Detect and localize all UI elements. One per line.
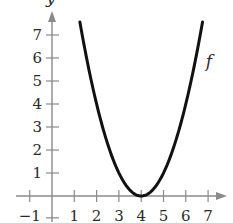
x-tick-label: 3 [114,207,124,223]
axes [16,11,227,222]
y-tick-label: 6 [32,49,42,67]
y-tick-label: 5 [32,72,42,90]
y-axis-label: y [45,0,56,7]
y-ticks: 1234567 [32,26,59,218]
y-axis-arrow-icon [48,11,56,22]
y-tick-label: 4 [32,95,42,113]
y-tick-label: 3 [32,118,42,136]
x-tick-label: 6 [181,207,191,223]
x-tick-label: 7 [203,207,213,223]
x-tick-label: −1 [19,207,41,223]
function-plot: −11234567 1234567 y f [0,0,233,223]
function-label: f [204,51,215,71]
x-axis-arrow-icon [216,192,227,200]
x-tick-label: 4 [136,207,146,223]
y-tick-label: 2 [32,141,42,159]
function-curve-f [80,22,203,196]
y-tick-label: 1 [32,164,42,182]
x-tick-label: 1 [70,207,80,223]
x-tick-label: 2 [92,207,102,223]
y-tick-label: 7 [32,26,42,44]
x-tick-label: 5 [159,207,169,223]
